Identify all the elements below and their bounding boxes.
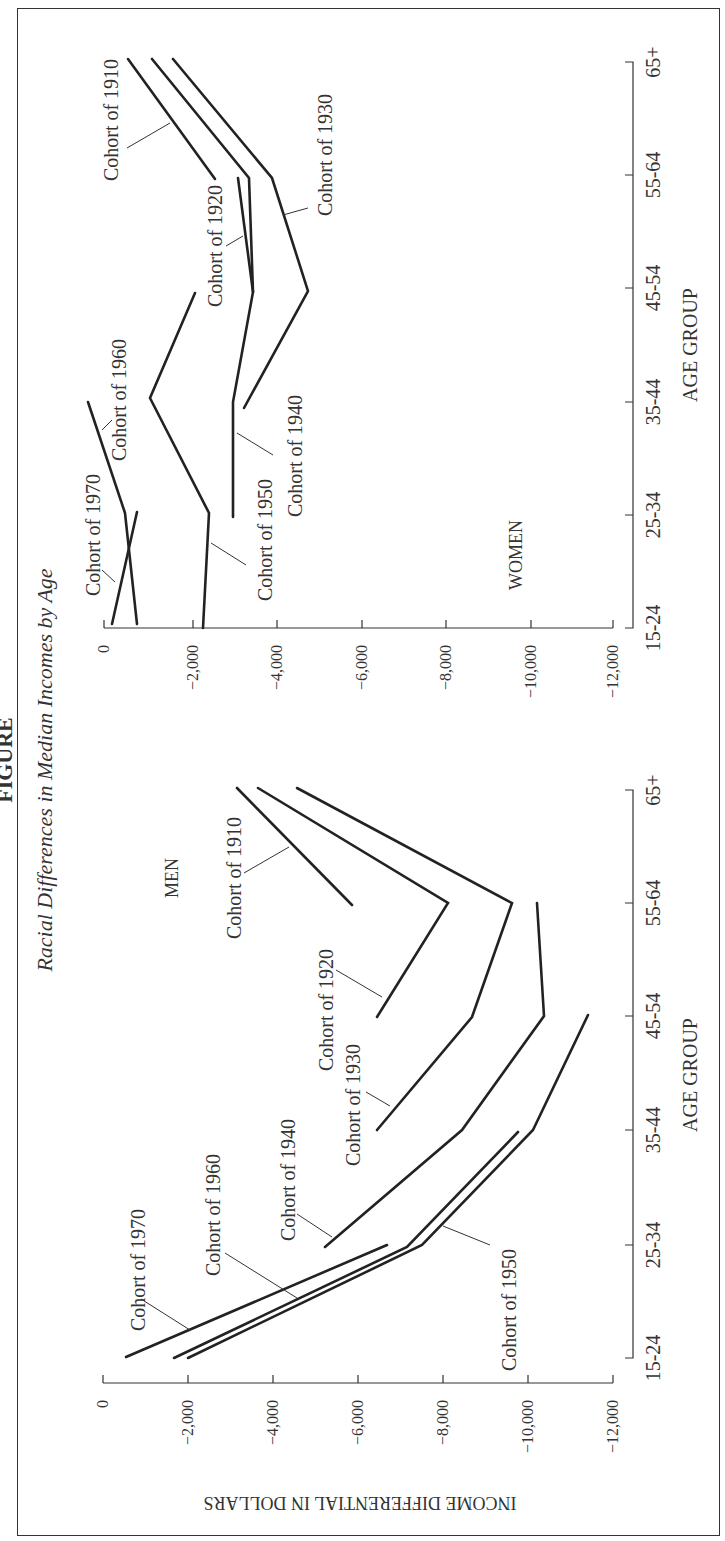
women-panel: 0 −2,000 −4,000 −6,000 −8,000 −10,000 −1… [82, 46, 701, 698]
women-1940-leader [237, 433, 273, 455]
men-label-1940: Cohort of 1940 [277, 1119, 299, 1241]
women-panel-label: WOMEN [506, 520, 526, 590]
women-label-1920: Cohort of 1920 [204, 185, 226, 307]
men-tick-4000: −4,000 [264, 1400, 281, 1445]
women-age-25-34: 25-34 [642, 492, 664, 539]
men-label-1950: Cohort of 1950 [498, 1249, 520, 1371]
chart-title: Racial Differences in Median Incomes by … [32, 568, 57, 972]
men-age-35-44: 35-44 [642, 1107, 664, 1154]
men-cohort-1970-line [126, 1245, 387, 1357]
women-label-1960: Cohort of 1960 [108, 339, 130, 461]
men-label-1970: Cohort of 1970 [127, 1209, 149, 1331]
men-panel: 0 −2,000 −4,000 −6,000 −8,000 −10,000 −1… [94, 774, 701, 1513]
women-1910-leader [127, 123, 170, 148]
women-tick-6000: −6,000 [353, 645, 370, 690]
men-1960-leader [225, 1253, 297, 1298]
men-value-axis [103, 1375, 613, 1383]
women-age-axis [625, 62, 633, 628]
men-tick-12000: −12,000 [604, 1400, 621, 1453]
women-age-35-44: 35-44 [642, 379, 664, 426]
women-label-1940: Cohort of 1940 [284, 395, 306, 517]
men-tick-8000: −8,000 [434, 1400, 451, 1445]
women-1920-leader [226, 236, 243, 246]
women-cohort-1970-line [112, 512, 137, 624]
men-1920-leader [336, 970, 382, 997]
men-1950-leader [443, 1226, 490, 1245]
figure-header: FIGURE [0, 717, 17, 803]
men-label-1930: Cohort of 1930 [342, 1044, 364, 1166]
men-age-65plus: 65+ [642, 774, 664, 805]
women-age-15-24: 15-24 [642, 605, 664, 652]
men-tick-0: 0 [94, 1400, 111, 1408]
value-axis-label: INCOME DIFFERENTIAL IN DOLLARS [204, 1493, 517, 1513]
women-label-1970: Cohort of 1970 [82, 474, 104, 596]
men-tick-6000: −6,000 [349, 1400, 366, 1445]
men-label-1960: Cohort of 1960 [202, 1154, 224, 1276]
women-cohort-1950-line [150, 293, 209, 628]
women-tick-0: 0 [95, 645, 112, 653]
chart-canvas: FIGURE Racial Differences in Median Inco… [0, 0, 725, 1541]
women-label-1910: Cohort of 1910 [100, 59, 122, 181]
women-value-axis [104, 620, 613, 628]
men-label-1910: Cohort of 1910 [223, 817, 245, 939]
men-1910-leader [244, 847, 289, 873]
men-age-45-54: 45-54 [642, 993, 664, 1040]
women-age-45-54: 45-54 [642, 265, 664, 312]
men-age-axis-label: AGE GROUP [679, 1018, 701, 1132]
women-label-1950: Cohort of 1950 [254, 479, 276, 601]
men-age-55-64: 55-64 [642, 880, 664, 927]
women-1930-leader [283, 208, 308, 215]
women-tick-10000: −10,000 [522, 645, 539, 698]
men-1940-leader [297, 1214, 332, 1237]
women-tick-4000: −4,000 [268, 645, 285, 690]
men-cohort-1910-line [237, 788, 352, 905]
men-panel-label: MEN [162, 858, 182, 898]
men-tick-2000: −2,000 [179, 1400, 196, 1445]
men-age-25-34: 25-34 [642, 1222, 664, 1269]
women-label-1930: Cohort of 1930 [314, 94, 336, 216]
women-age-55-64: 55-64 [642, 152, 664, 199]
women-age-axis-label: AGE GROUP [679, 288, 701, 402]
men-tick-10000: −10,000 [519, 1400, 536, 1453]
men-age-axis [625, 790, 633, 1358]
women-tick-8000: −8,000 [437, 645, 454, 690]
men-cohort-1950-line [188, 1015, 588, 1358]
men-cohort-1920-line [258, 788, 448, 1017]
women-age-65plus: 65+ [642, 46, 664, 77]
men-label-1920: Cohort of 1920 [315, 949, 337, 1071]
men-age-15-24: 15-24 [642, 1335, 664, 1382]
men-1930-leader [366, 1092, 390, 1106]
women-tick-2000: −2,000 [184, 645, 201, 690]
women-tick-12000: −12,000 [604, 645, 621, 698]
women-1950-leader [211, 543, 246, 565]
